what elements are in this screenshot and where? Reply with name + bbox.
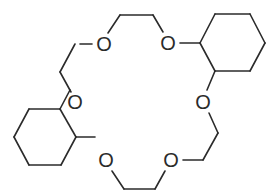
bond-2 xyxy=(60,72,71,92)
bond-5 xyxy=(153,15,163,32)
bond-27 xyxy=(209,113,218,133)
bond-20 xyxy=(60,109,76,137)
oxygen-atoms: OOOOOO xyxy=(67,32,211,171)
bond-17 xyxy=(14,137,29,165)
oxygen-atom-o3: O xyxy=(67,91,83,113)
bond-19 xyxy=(61,137,76,165)
bond-7 xyxy=(200,14,215,43)
oxygen-atom-o5: O xyxy=(98,149,114,171)
bond-24 xyxy=(155,171,165,189)
bond-16 xyxy=(14,109,29,137)
bond-13 xyxy=(207,71,215,90)
bond-26 xyxy=(203,133,218,160)
bond-10 xyxy=(250,43,265,71)
bond-12 xyxy=(200,43,215,71)
oxygen-atom-o4: O xyxy=(195,91,211,113)
bond-lines xyxy=(14,14,265,189)
oxygen-atom-o2: O xyxy=(160,32,176,54)
bond-9 xyxy=(250,14,265,43)
bond-1 xyxy=(60,44,75,72)
oxygen-atom-o1: O xyxy=(96,33,112,55)
crown-ether-structure: OOOOOO xyxy=(0,0,278,195)
oxygen-atom-o6: O xyxy=(163,149,179,171)
bond-3 xyxy=(108,15,120,33)
bond-22 xyxy=(112,171,124,189)
